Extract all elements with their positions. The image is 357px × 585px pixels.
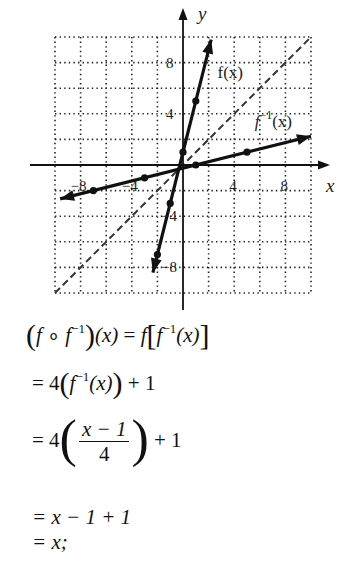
- svg-text:−8: −8: [71, 178, 87, 194]
- svg-text:y: y: [196, 3, 207, 24]
- svg-text:f−1(x): f−1(x): [255, 108, 292, 131]
- svg-text:4: 4: [229, 178, 237, 194]
- suffix: + 1: [123, 371, 156, 395]
- denominator: 4: [79, 442, 130, 466]
- inverse-exponent: −1: [71, 321, 85, 336]
- paren-open: (: [26, 318, 36, 351]
- svg-text:8: 8: [280, 178, 288, 194]
- suffix: + 1: [149, 428, 182, 452]
- equation-line-5: = x;: [32, 530, 68, 555]
- numerator: x − 1: [79, 418, 130, 442]
- equation-line-2: = 4(f−1(x)) + 1: [32, 366, 155, 400]
- paren-close: ): [85, 318, 95, 351]
- paren-open: (: [60, 366, 70, 399]
- prefix: = 4: [32, 428, 60, 452]
- inverse-exponent: −1: [162, 321, 176, 336]
- svg-text:x: x: [325, 175, 335, 196]
- svg-text:f(x): f(x): [218, 63, 243, 82]
- argument-x: (x): [89, 371, 112, 395]
- bracket-close: ]: [200, 318, 210, 351]
- fraction: x − 14: [79, 418, 130, 466]
- equation-line-4: = x − 1 + 1: [32, 505, 131, 530]
- svg-text:4: 4: [166, 106, 174, 122]
- svg-text:−4: −4: [161, 208, 177, 224]
- paren-close: ): [131, 410, 148, 467]
- paren-close: ): [113, 366, 123, 399]
- equation-line-3: = 4(x − 14) + 1: [32, 418, 182, 466]
- inverse-exponent: −1: [75, 369, 89, 384]
- argument-x: (x): [95, 323, 118, 347]
- svg-text:−4: −4: [122, 178, 138, 194]
- argument-x: (x): [176, 323, 199, 347]
- svg-text:8: 8: [166, 55, 174, 71]
- compose-operator: ∘: [42, 323, 66, 347]
- prefix: = 4: [32, 371, 60, 395]
- series-f(x): [151, 40, 213, 273]
- paren-open: (: [60, 410, 77, 467]
- svg-text:−8: −8: [161, 259, 177, 275]
- equals-sign: =: [118, 323, 140, 347]
- bracket-open: [: [147, 318, 157, 351]
- coordinate-graph: −8−44884−4−8xyf(x)f−1(x): [0, 0, 357, 310]
- equation-line-1: (f ∘ f−1)(x) = f[f−1(x)]: [26, 318, 210, 352]
